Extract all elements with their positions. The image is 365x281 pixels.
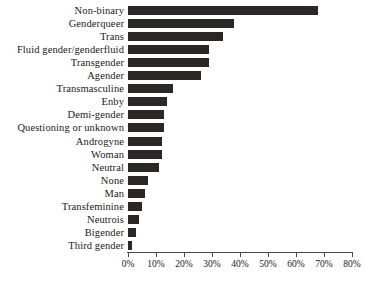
x-tick-mark — [212, 253, 213, 257]
bar — [128, 97, 167, 106]
category-axis-labels: Non-binaryGenderqueerTransFluid gender/g… — [0, 0, 124, 252]
category-label: Transgender — [0, 57, 124, 68]
x-tick-label: 0% — [113, 259, 143, 270]
x-tick-label: 70% — [309, 259, 339, 270]
x-tick-label: 50% — [253, 259, 283, 270]
bar — [128, 84, 173, 93]
category-label: Androgyne — [0, 136, 124, 147]
x-tick-mark — [128, 253, 129, 257]
category-label: Demi-gender — [0, 109, 124, 120]
bar — [128, 150, 162, 159]
category-label: Agender — [0, 70, 124, 81]
x-tick-mark — [184, 253, 185, 257]
category-label: Woman — [0, 149, 124, 160]
x-tick-label: 60% — [281, 259, 311, 270]
bar — [128, 163, 159, 172]
plot-area — [128, 0, 356, 252]
x-tick-mark — [156, 253, 157, 257]
category-label: Man — [0, 188, 124, 199]
bar — [128, 32, 223, 41]
bar — [128, 137, 162, 146]
bar — [128, 110, 164, 119]
bar — [128, 215, 139, 224]
x-tick-mark — [352, 253, 353, 257]
x-tick-label: 30% — [197, 259, 227, 270]
bar — [128, 123, 164, 132]
category-label: Questioning or unknown — [0, 122, 124, 133]
bar — [128, 228, 136, 237]
category-label: Neutrois — [0, 214, 124, 225]
x-tick-mark — [268, 253, 269, 257]
bar — [128, 176, 148, 185]
x-tick-label: 80% — [337, 259, 365, 270]
x-tick-label: 20% — [169, 259, 199, 270]
bar — [128, 189, 145, 198]
bar — [128, 6, 318, 15]
category-label: Fluid gender/genderfluid — [0, 44, 124, 55]
bar-chart: Non-binaryGenderqueerTransFluid gender/g… — [0, 0, 365, 281]
category-label: Transfeminine — [0, 201, 124, 212]
category-label: Bigender — [0, 227, 124, 238]
bar — [128, 241, 132, 250]
category-label: Third gender — [0, 240, 124, 251]
category-label: Enby — [0, 96, 124, 107]
category-label: Trans — [0, 31, 124, 42]
x-tick-mark — [240, 253, 241, 257]
category-label: Transmasculine — [0, 83, 124, 94]
category-label: Non-binary — [0, 5, 124, 16]
bar — [128, 71, 201, 80]
bar — [128, 58, 209, 67]
x-tick-label: 10% — [141, 259, 171, 270]
x-tick-label: 40% — [225, 259, 255, 270]
x-tick-mark — [324, 253, 325, 257]
x-tick-mark — [296, 253, 297, 257]
category-label: Genderqueer — [0, 18, 124, 29]
category-label: None — [0, 175, 124, 186]
bar — [128, 202, 142, 211]
category-label: Neutral — [0, 162, 124, 173]
bar — [128, 45, 209, 54]
bar — [128, 19, 234, 28]
